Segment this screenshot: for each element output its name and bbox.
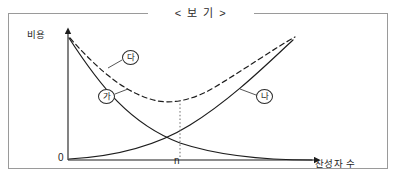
curve-tag-ga: 가 [98, 89, 115, 104]
curve-tag-da: 다 [122, 50, 139, 65]
x-axis-label: 찬성자 수 [315, 156, 355, 170]
leader-line-na [240, 89, 256, 95]
curve-tag-na: 나 [256, 89, 273, 104]
y-axis-label: 비용 [27, 27, 46, 41]
origin-label: 0 [58, 152, 64, 163]
figure-container: < 보 기 > 비용 찬성자 수 0 n 다 가 나 [0, 0, 398, 182]
x-tick-label-n: n [174, 155, 180, 166]
leader-line-ga [115, 89, 128, 94]
leader-line-da [108, 60, 122, 68]
